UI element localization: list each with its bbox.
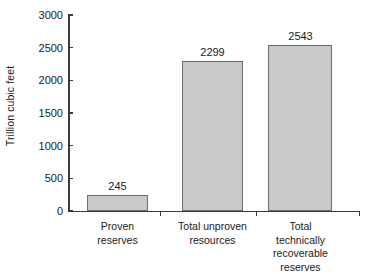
y-axis-tick-label: 0 — [0, 205, 63, 217]
y-axis-tick — [68, 178, 73, 179]
y-axis-tick — [68, 14, 73, 15]
y-axis-tick-label: 2500 — [0, 42, 63, 54]
y-axis-tick-label: 3000 — [0, 9, 63, 21]
y-axis-tick — [68, 112, 73, 113]
category-label: Provenreserves — [97, 220, 137, 247]
category-label-line: reserves — [97, 234, 137, 248]
y-axis-tick — [68, 47, 73, 48]
y-axis-tick — [68, 145, 73, 146]
bar — [268, 45, 332, 211]
bar — [87, 195, 148, 211]
bar-value-label: 2299 — [200, 46, 224, 58]
category-label-line: Proven — [97, 220, 137, 234]
y-axis-tick — [68, 80, 73, 81]
y-axis-tick-label: 2000 — [0, 74, 63, 86]
bar-value-label: 245 — [108, 180, 126, 192]
x-axis-tick — [160, 211, 161, 216]
category-label: Total technicallyrecoverable reserves — [268, 220, 333, 274]
bar — [182, 61, 243, 211]
bar-value-label: 2543 — [288, 30, 312, 42]
y-axis-tick-label: 1000 — [0, 140, 63, 152]
y-axis-tick — [68, 210, 73, 211]
x-axis-tick — [256, 211, 257, 216]
category-label-line: Total technically — [268, 220, 333, 247]
y-axis-tick-label: 500 — [0, 172, 63, 184]
x-axis-tick — [359, 211, 360, 216]
category-label-line: resources — [178, 234, 247, 248]
category-label-line: recoverable reserves — [268, 247, 333, 274]
y-axis-tick-label: 1500 — [0, 107, 63, 119]
category-label: Total unprovenresources — [178, 220, 247, 247]
category-label-line: Total unproven — [178, 220, 247, 234]
